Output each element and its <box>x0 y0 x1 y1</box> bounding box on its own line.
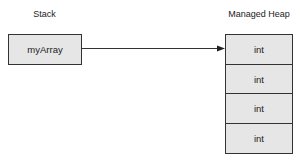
heap-cell: int <box>225 93 293 124</box>
heap-cell-label: int <box>254 74 264 85</box>
heap-cell: int <box>225 123 293 154</box>
heap-cell-label: int <box>254 133 264 144</box>
heap-cell: int <box>225 64 293 95</box>
heap-array-block: int int int int <box>225 34 293 154</box>
heap-cell: int <box>225 34 293 65</box>
arrow-head-icon <box>217 46 225 52</box>
heap-cell-label: int <box>254 103 264 114</box>
heap-cell-label: int <box>254 44 264 55</box>
